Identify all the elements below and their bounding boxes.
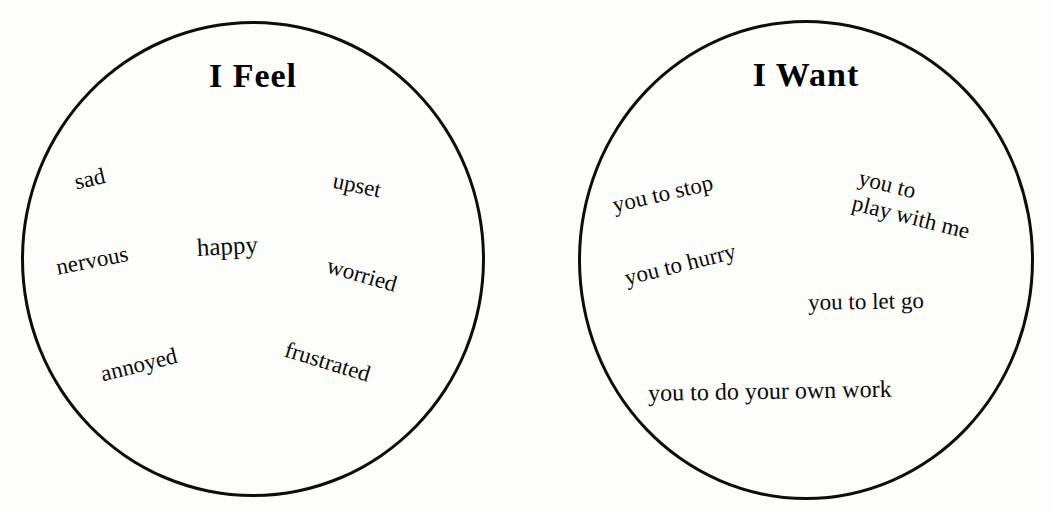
circle-title-i-feel: I Feel [21, 57, 485, 95]
word-happy[interactable]: happy [196, 231, 259, 263]
word-you-to-do-your-own-work[interactable]: you to do your own work [648, 376, 892, 408]
word-you-to-let-go[interactable]: you to let go [808, 288, 924, 316]
circle-title-i-want: I Want [578, 56, 1034, 94]
worksheet-canvas: I Feel I Want sadupsethappynervousworrie… [0, 0, 1053, 513]
